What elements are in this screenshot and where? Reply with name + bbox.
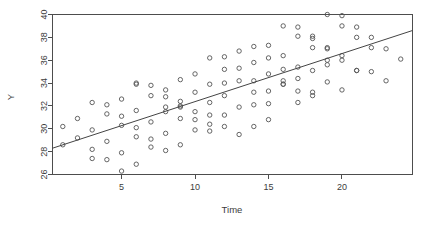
y-tick-label: 34: [39, 78, 49, 88]
y-tick-label: 32: [39, 101, 49, 111]
x-tick-label: 15: [263, 182, 273, 192]
x-tick-label: 20: [337, 182, 347, 192]
y-tick-label: 38: [39, 32, 49, 42]
x-tick-label: 5: [119, 182, 124, 192]
x-tick-label: 10: [190, 182, 200, 192]
y-tick-label: 36: [39, 55, 49, 65]
chart-background: [0, 0, 426, 231]
y-tick-label: 28: [39, 147, 49, 157]
x-axis-title: Time: [222, 204, 243, 215]
y-tick-label: 40: [39, 9, 49, 19]
scatter-plot-figure: 2628303234363840 5101520 Y Time: [0, 0, 426, 231]
y-axis-title: Y: [5, 93, 16, 100]
chart-canvas: 2628303234363840 5101520 Y Time: [0, 0, 426, 231]
y-tick-label: 30: [39, 124, 49, 134]
y-tick-label: 26: [39, 169, 49, 179]
